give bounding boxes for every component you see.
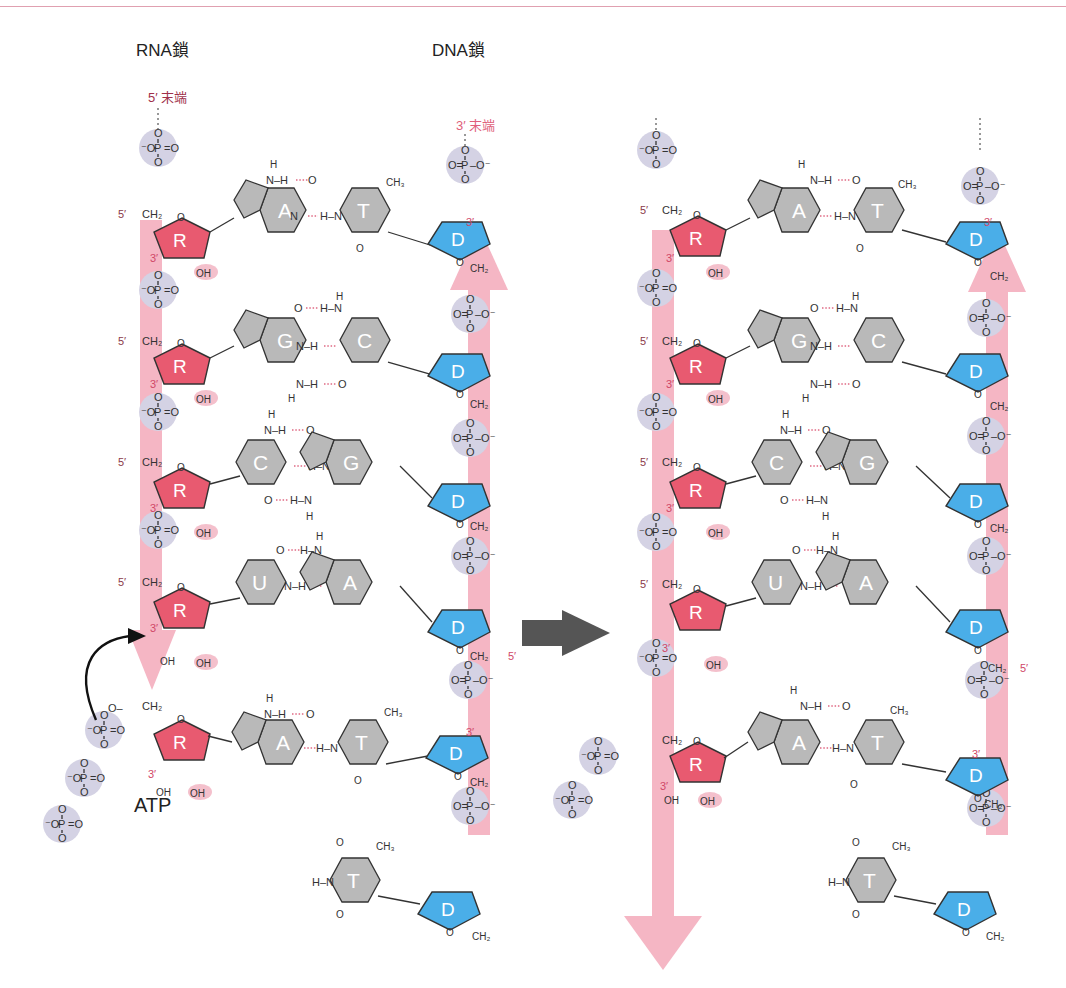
svg-text:OH: OH: [708, 268, 723, 279]
svg-text:3′: 3′: [984, 216, 992, 228]
svg-text:N–H: N–H: [810, 378, 832, 390]
dna-strand-label: DNA鎖: [432, 41, 485, 60]
svg-text:CH₂: CH₂: [990, 523, 1008, 534]
svg-text:O: O: [850, 779, 858, 790]
svg-text:H–N: H–N: [836, 302, 858, 314]
svg-text:CH₂: CH₂: [662, 578, 682, 590]
svg-text:H–N: H–N: [806, 494, 828, 506]
svg-text:O: O: [276, 544, 285, 556]
base-G: G: [277, 329, 293, 352]
svg-text:OH: OH: [706, 660, 721, 671]
svg-text:R: R: [689, 228, 703, 249]
svg-text:CH₂: CH₂: [986, 931, 1004, 942]
rna-strand-label: RNA鎖: [136, 41, 189, 60]
base-pair-row-1: 5′ CH₂ R 3′ OH A H N–H O H–N T CH₃ O D 3…: [640, 159, 1008, 282]
svg-text:CH₂: CH₂: [470, 651, 488, 662]
svg-text:R: R: [173, 732, 187, 753]
svg-text:N–H: N–H: [810, 174, 832, 186]
svg-text:D: D: [451, 617, 465, 638]
svg-text:CH₃: CH₃: [384, 707, 403, 718]
svg-text:CH₃: CH₃: [890, 705, 909, 716]
svg-text:OH: OH: [196, 394, 211, 405]
svg-text:3′: 3′: [148, 768, 156, 780]
svg-text:H: H: [782, 409, 789, 420]
svg-text:D: D: [969, 491, 983, 512]
svg-text:3′: 3′: [662, 642, 670, 654]
base-pair-row-1: 5′ CH₂ R 3′ OH A H N–H O N H–N T CH₃ O D…: [118, 159, 490, 280]
base-T: T: [357, 199, 370, 222]
base-T: T: [355, 731, 368, 754]
svg-text:N–H: N–H: [296, 340, 318, 352]
svg-text:CH₂: CH₂: [662, 204, 682, 216]
base-G: G: [343, 451, 359, 474]
svg-text:O: O: [792, 544, 801, 556]
svg-text:N–H: N–H: [810, 340, 832, 352]
svg-text:H: H: [268, 409, 275, 420]
svg-text:3′: 3′: [150, 502, 158, 514]
svg-text:CH₂: CH₂: [142, 700, 162, 712]
svg-text:R: R: [689, 480, 703, 501]
svg-text:O: O: [842, 700, 851, 712]
deoxyribose-label: D: [451, 229, 465, 250]
svg-text:5′: 5′: [118, 335, 126, 347]
svg-text:D: D: [957, 899, 971, 920]
svg-text:G: G: [859, 451, 875, 474]
svg-text:CH₃: CH₃: [376, 841, 395, 852]
svg-text:CH₂: CH₂: [470, 777, 488, 788]
svg-text:N–H: N–H: [800, 580, 822, 592]
svg-text:O: O: [856, 243, 864, 254]
svg-text:O: O: [356, 243, 364, 254]
svg-text:OH: OH: [708, 528, 723, 539]
svg-text:O: O: [852, 378, 861, 390]
svg-text:H–N: H–N: [290, 494, 312, 506]
svg-text:O: O: [336, 909, 344, 920]
svg-text:3′: 3′: [660, 780, 668, 792]
svg-text:CH₂: CH₂: [990, 401, 1008, 412]
svg-text:U: U: [768, 571, 783, 594]
svg-text:N–H: N–H: [264, 708, 286, 720]
svg-text:5′: 5′: [640, 204, 648, 216]
svg-text:N: N: [290, 210, 298, 222]
svg-text:3′: 3′: [150, 378, 158, 390]
svg-text:5′: 5′: [118, 456, 126, 468]
unpaired-template-base: T H–N O CH₃ O D CH₂: [828, 837, 1004, 942]
svg-text:CH₃: CH₃: [892, 841, 911, 852]
svg-text:3′: 3′: [666, 378, 674, 390]
svg-text:N–H: N–H: [800, 700, 822, 712]
dna-3-end-label: 3′ 末端: [456, 118, 495, 133]
svg-text:H–N: H–N: [828, 876, 850, 888]
svg-text:O: O: [852, 174, 861, 186]
svg-text:T: T: [863, 869, 876, 892]
panel-after: 5′ CH₂ R 3′ OH A H N–H O H–N T CH₃ O D 3…: [553, 118, 1028, 970]
svg-text:D: D: [969, 617, 983, 638]
transcription-diagram: ⁻O P =O O O O= P –O⁻ O O O O: [0, 0, 1066, 988]
svg-text:3′: 3′: [972, 748, 980, 760]
svg-text:H–N: H–N: [834, 210, 856, 222]
process-arrow-icon: [522, 610, 610, 656]
svg-text:H: H: [288, 393, 295, 404]
svg-text:H: H: [336, 291, 343, 302]
svg-text:H–N: H–N: [316, 742, 338, 754]
svg-text:OH: OH: [708, 394, 723, 405]
phosphate-icon: [446, 144, 491, 185]
svg-text:T: T: [871, 199, 884, 222]
svg-text:CH₂: CH₂: [142, 335, 162, 347]
pyrophosphate-released: [553, 735, 619, 820]
svg-text:H: H: [270, 159, 277, 170]
svg-text:N–H: N–H: [296, 378, 318, 390]
svg-text:H: H: [852, 291, 859, 302]
base-pair-row-2: 5′ CH₂ R 3′ OH G O H–N H N–H N–H O H C D: [118, 291, 490, 410]
svg-text:CH₂: CH₂: [470, 521, 488, 532]
svg-text:H: H: [822, 511, 829, 522]
base-U: U: [252, 571, 267, 594]
svg-text:5′: 5′: [508, 650, 516, 662]
svg-text:O: O: [264, 494, 273, 506]
svg-text:3′: 3′: [150, 252, 158, 264]
svg-text:A: A: [859, 571, 873, 594]
svg-text:R: R: [173, 480, 187, 501]
svg-text:O: O: [306, 708, 315, 720]
svg-text:3′: 3′: [466, 216, 474, 228]
svg-text:O: O: [780, 494, 789, 506]
svg-text:CH₂: CH₂: [142, 456, 162, 468]
svg-text:O: O: [354, 775, 362, 786]
